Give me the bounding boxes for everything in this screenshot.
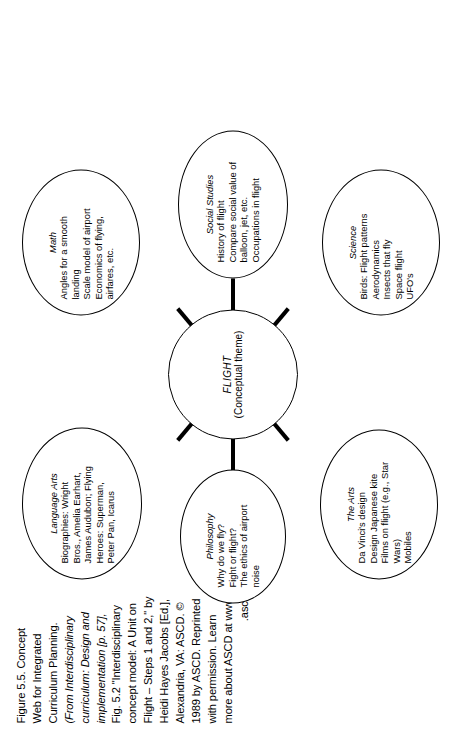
node-flight-body: FLIGHT (Conceptual theme) bbox=[222, 310, 245, 438]
node-social-studies-line: Compare social value of bbox=[227, 137, 238, 271]
node-philosophy-line: Fight or flight? bbox=[227, 476, 238, 596]
node-flight[interactable]: FLIGHT (Conceptual theme) bbox=[168, 309, 298, 439]
node-the-arts-line: Films on flight (e.g., Star bbox=[379, 436, 390, 572]
node-math[interactable]: Math Angles for a smooth landing Scale m… bbox=[22, 169, 140, 315]
node-the-arts-line: Wars) bbox=[390, 436, 401, 572]
node-language-arts-line: Biographies: Wright bbox=[59, 434, 70, 572]
node-math-line: airfares, etc. bbox=[104, 176, 115, 308]
node-science-body: Science Birds: Flight patterns Aerodynam… bbox=[347, 170, 415, 314]
node-math-line: Scale model of airport bbox=[81, 176, 92, 308]
node-language-arts-line: Bros., Amelia Earhart, bbox=[71, 434, 82, 572]
node-language-arts-line: James Audubon; Flying bbox=[82, 434, 93, 572]
node-philosophy[interactable]: Philosophy Why do we fly? Fight or fligh… bbox=[180, 469, 286, 603]
node-the-arts-line: Mobiles bbox=[402, 436, 413, 572]
node-social-studies-line: balloon, jet, etc. bbox=[239, 137, 250, 271]
node-philosophy-body: Philosophy Why do we fly? Fight or fligh… bbox=[204, 470, 261, 602]
node-science[interactable]: Science Birds: Flight patterns Aerodynam… bbox=[322, 169, 440, 315]
node-social-studies[interactable]: Social Studies History of flight Compare… bbox=[178, 130, 288, 278]
node-science-line: Birds: Flight patterns bbox=[358, 176, 369, 308]
node-science-line: UFO's bbox=[404, 176, 415, 308]
node-math-line: landing bbox=[70, 176, 81, 308]
caption-line: Heidi Hayes Jacobs [Ed.], bbox=[157, 467, 173, 723]
caption-line: Flight – Steps 1 and 2," by bbox=[141, 467, 157, 723]
node-science-line: Aerodynamics bbox=[370, 176, 381, 308]
node-philosophy-line: noise bbox=[250, 476, 261, 596]
node-flight-title: FLIGHT bbox=[222, 316, 233, 432]
node-social-studies-body: Social Studies History of flight Compare… bbox=[204, 131, 261, 277]
node-the-arts-body: The Arts Da Vinci's design Design Japane… bbox=[345, 430, 413, 578]
node-flight-line: (Conceptual theme) bbox=[233, 316, 244, 432]
node-social-studies-line: History of flight bbox=[216, 137, 227, 271]
node-science-title: Science bbox=[347, 176, 358, 308]
node-language-arts-line: Peter Pan, Icarus bbox=[105, 434, 116, 572]
node-philosophy-title: Philosophy bbox=[204, 476, 215, 596]
node-language-arts-line: Heroes: Superman, bbox=[93, 434, 104, 572]
node-social-studies-line: Occupations in flight bbox=[250, 137, 261, 271]
node-math-line: Economics of flying, bbox=[92, 176, 103, 308]
figure-rotator: Figure 5.5. Concept Web for Integrated C… bbox=[0, 0, 466, 739]
node-philosophy-line: Why do we fly? bbox=[216, 476, 227, 596]
node-language-arts[interactable]: Language Arts Biographies: Wright Bros.,… bbox=[22, 427, 142, 579]
node-science-line: Space flight bbox=[392, 176, 403, 308]
node-philosophy-line: The ethics of airport bbox=[239, 476, 250, 596]
node-the-arts[interactable]: The Arts Da Vinci's design Design Japane… bbox=[320, 429, 438, 579]
node-language-arts-title: Language Arts bbox=[48, 434, 59, 572]
node-science-line: Insects that fly bbox=[381, 176, 392, 308]
node-math-body: Math Angles for a smooth landing Scale m… bbox=[47, 170, 115, 314]
node-math-title: Math bbox=[47, 176, 58, 308]
node-the-arts-title: The Arts bbox=[345, 436, 356, 572]
concept-web-diagram: Figure 5.5. Concept Web for Integrated C… bbox=[0, 0, 466, 739]
node-the-arts-line: Design Japanese kite bbox=[368, 436, 379, 572]
node-social-studies-title: Social Studies bbox=[204, 137, 215, 271]
node-the-arts-line: Da Vinci's design bbox=[356, 436, 367, 572]
node-math-line: Angles for a smooth bbox=[58, 176, 69, 308]
node-language-arts-body: Language Arts Biographies: Wright Bros.,… bbox=[48, 428, 116, 578]
